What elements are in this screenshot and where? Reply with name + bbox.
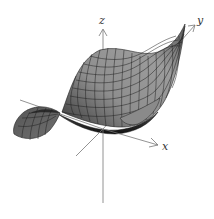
surface-plot-figure: z x y — [0, 0, 214, 219]
y-axis-lower — [76, 129, 103, 156]
surface-main-sheet — [62, 24, 185, 127]
y-axis-label: y — [196, 14, 204, 27]
z-axis-label: z — [98, 14, 105, 27]
x-axis-label: x — [162, 140, 169, 153]
surface-left-lobe — [13, 107, 60, 140]
